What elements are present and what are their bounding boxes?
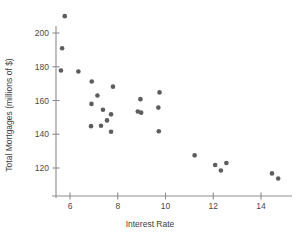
data-point	[89, 102, 94, 107]
data-point	[111, 84, 116, 89]
x-tick-label: 8	[115, 201, 120, 211]
y-tick-label: 140	[35, 129, 49, 139]
x-tick-label: 6	[68, 201, 73, 211]
y-axis-title: Total Mortgages (millions of $)	[4, 58, 14, 172]
data-point	[60, 46, 65, 51]
data-point	[59, 68, 64, 73]
data-point	[99, 124, 104, 129]
data-point	[270, 171, 275, 176]
data-point	[89, 79, 94, 84]
data-point	[224, 161, 229, 166]
x-tick-label: 14	[256, 201, 266, 211]
data-point	[156, 105, 161, 110]
x-tick-label: 12	[209, 201, 219, 211]
data-points-layer	[59, 14, 281, 181]
data-point	[76, 69, 81, 74]
data-point	[89, 124, 94, 129]
x-axis: 68101214	[52, 193, 292, 212]
data-point	[105, 118, 110, 123]
y-tick-label: 120	[35, 163, 49, 173]
data-point	[109, 112, 114, 117]
data-point	[62, 14, 67, 19]
data-point	[109, 129, 114, 134]
scatter-chart-figure: 120140160180200 68101214 Interest Rate T…	[0, 0, 301, 237]
data-point	[276, 176, 281, 181]
data-point	[192, 153, 197, 158]
y-tick-label: 160	[35, 96, 49, 106]
chart-canvas: 120140160180200 68101214 Interest Rate T…	[0, 0, 301, 237]
data-point	[139, 110, 144, 115]
x-tick-label: 10	[161, 201, 171, 211]
data-point	[157, 90, 162, 95]
x-axis-title: Interest Rate	[126, 219, 175, 229]
y-axis: 120140160180200	[35, 26, 60, 198]
y-tick-label: 180	[35, 62, 49, 72]
data-point	[101, 107, 106, 112]
data-point	[95, 93, 100, 98]
data-point	[138, 97, 143, 102]
data-point	[157, 129, 162, 134]
data-point	[213, 163, 218, 168]
y-tick-label: 200	[35, 28, 49, 38]
data-point	[219, 168, 224, 173]
